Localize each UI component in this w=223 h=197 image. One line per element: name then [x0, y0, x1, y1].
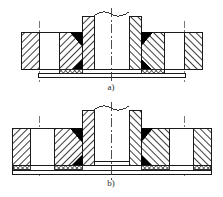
bolt-hole-left-b	[30, 128, 54, 165]
neck-wall-right	[129, 16, 141, 69]
flange-ring-right-outer	[184, 32, 202, 69]
gasket-outer-right	[193, 166, 210, 170]
bolt-hole-right-b	[169, 128, 193, 165]
flange-ring-left-outer	[21, 32, 39, 69]
gasket-inner-right	[141, 166, 169, 170]
caption-view-a: a)	[96, 82, 126, 92]
figure-root: a) b)	[0, 0, 223, 197]
gasket-right	[141, 69, 164, 73]
neck-wall-left	[82, 16, 94, 69]
bolt-hole-right	[164, 32, 184, 69]
neck-wall-left-b	[82, 110, 94, 165]
caption-view-b: b)	[96, 178, 126, 188]
gasket-outer-left	[13, 166, 30, 170]
gasket-inner-left	[54, 166, 82, 170]
flange-ring-left-outer-b	[12, 128, 30, 165]
flange-drawing-svg	[0, 0, 223, 197]
neck-wall-right-b	[129, 110, 141, 165]
gasket-left	[59, 69, 82, 73]
flange-ring-right-outer-b	[193, 128, 211, 165]
bolt-hole-left	[39, 32, 59, 69]
